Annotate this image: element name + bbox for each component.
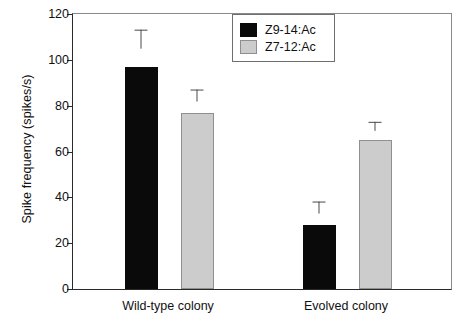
- y-axis-title: Spike frequency (spikes/s): [20, 29, 34, 269]
- error-bar-stem: [375, 122, 376, 131]
- bar: [181, 113, 214, 289]
- error-bar-stem: [319, 202, 320, 213]
- legend-item: Z7-12:Ac: [240, 38, 326, 55]
- error-bar-stem: [197, 90, 198, 101]
- error-bar-stem: [141, 30, 142, 48]
- chart-legend: Z9-14:Ac Z7-12:Ac: [232, 14, 335, 62]
- y-tick-label: 40: [55, 190, 69, 204]
- y-tick-label: 60: [55, 145, 69, 159]
- y-tick-label: 80: [55, 99, 69, 113]
- y-tick-label: 100: [48, 53, 69, 67]
- y-tick-label: 120: [48, 7, 69, 21]
- bar-chart-figure: Spike frequency (spikes/s) 0204060801001…: [0, 0, 457, 333]
- y-tick-label: 20: [55, 236, 69, 250]
- legend-item: Z9-14:Ac: [240, 21, 326, 38]
- bar: [359, 140, 392, 289]
- x-axis-group-label: Evolved colony: [304, 299, 388, 313]
- x-axis-group-label: Wild-type colony: [122, 299, 214, 313]
- error-bar-cap: [135, 30, 148, 31]
- y-tick-label: 0: [62, 282, 69, 296]
- error-bar-cap: [191, 90, 204, 91]
- legend-item-label: Z7-12:Ac: [265, 40, 316, 54]
- error-bar-cap: [369, 122, 382, 123]
- legend-swatch-icon: [240, 40, 257, 54]
- error-bar-cap: [313, 202, 326, 203]
- bar: [303, 225, 336, 289]
- bar: [125, 67, 158, 289]
- legend-item-label: Z9-14:Ac: [265, 23, 316, 37]
- legend-swatch-icon: [240, 23, 257, 37]
